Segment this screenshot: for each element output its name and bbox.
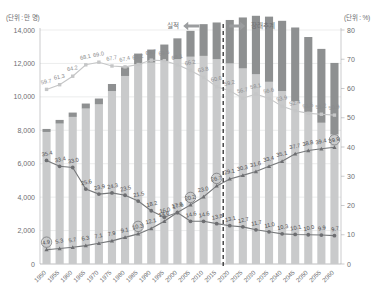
right-axis-tick-label: 70: [347, 56, 355, 63]
line-marker-working-age: [293, 109, 296, 112]
x-axis-tick-label: 1975: [98, 268, 113, 283]
line-marker-working-age: [58, 83, 61, 86]
left-axis-tick-label: 2,000: [17, 227, 35, 234]
line-marker-youth: [149, 209, 153, 213]
data-point-label: 12.7: [237, 216, 249, 224]
x-axis-tick-label: 2060: [320, 268, 335, 283]
line-marker-youth: [306, 233, 310, 237]
line-marker-working-age: [267, 97, 270, 100]
line-marker-youth: [215, 222, 219, 226]
data-point-label: 14.6: [185, 210, 197, 218]
data-point-label: 61.3: [53, 73, 65, 81]
data-point-label: 59.7: [40, 77, 52, 85]
bar-segment-elderly: [121, 67, 129, 76]
line-marker-youth: [84, 187, 88, 191]
x-axis-tick-label: 1960: [59, 268, 74, 283]
x-axis-tick-label: 2030: [242, 268, 257, 283]
line-marker-youth: [267, 230, 271, 234]
line-marker-working-age: [333, 113, 336, 116]
line-marker-working-age: [176, 63, 179, 66]
line-marker-working-age: [71, 75, 74, 78]
legend-projection-label: 장래추계: [251, 21, 275, 30]
x-axis-tick-label: 2015: [203, 268, 218, 283]
x-axis-tick-label: 2025: [229, 268, 244, 283]
line-marker-youth: [254, 228, 258, 232]
line-marker-working-age: [280, 105, 283, 108]
x-axis-tick-label: 2045: [281, 268, 296, 283]
bar-segment-elderly: [69, 113, 77, 117]
line-marker-working-age: [97, 60, 100, 63]
data-point-label: 13.1: [224, 215, 236, 223]
line-marker-youth: [189, 219, 193, 223]
bar-segment-elderly: [291, 27, 299, 101]
right-axis-tick-label: 80: [347, 27, 355, 34]
line-marker-youth: [280, 232, 284, 236]
line-marker-youth: [228, 224, 232, 228]
line-marker-youth: [333, 234, 337, 238]
bar-segment-elderly: [95, 99, 103, 105]
x-axis-tick-label: 2000: [163, 268, 178, 283]
x-axis-tick-label: 1970: [85, 268, 100, 283]
data-point-label: 33.0: [67, 156, 79, 164]
bar-segment-elderly: [317, 49, 325, 123]
bar-segment-working-age: [330, 134, 338, 264]
line-marker-youth: [110, 191, 114, 195]
bar-segment-elderly: [330, 63, 338, 135]
left-axis-tick-label: 0: [31, 261, 35, 268]
line-marker-working-age: [202, 76, 205, 79]
line-marker-working-age: [163, 59, 166, 62]
line-marker-working-age: [189, 69, 192, 72]
bar-segment-working-age: [186, 57, 194, 264]
line-marker-youth: [71, 166, 75, 170]
left-axis-tick-label: 6,000: [17, 160, 35, 167]
bar-segment-elderly: [200, 24, 208, 56]
bar-segment-working-age: [173, 59, 181, 264]
data-point-label: 11.7: [251, 219, 263, 227]
line-marker-working-age: [215, 85, 218, 88]
data-point-label: 13.8: [211, 213, 223, 221]
data-point-label: 23.9: [94, 183, 106, 191]
right-axis-tick-label: 0: [347, 261, 351, 268]
bar-segment-elderly: [56, 120, 64, 124]
legend-actual-label: 실적: [167, 21, 179, 30]
bar-segment-working-age: [304, 112, 312, 264]
left-axis-tick-label: 14,000: [14, 27, 36, 34]
line-marker-youth: [97, 192, 101, 196]
x-axis-tick-label: 2005: [177, 268, 192, 283]
chart-canvas: 02,0004,0006,0008,00010,00012,00014,0000…: [0, 0, 375, 299]
right-axis-tick-label: 30: [347, 173, 355, 180]
population-structure-chart: (단위 : 만 명) (단위 : %) 02,0004,0006,0008,00…: [0, 0, 375, 299]
line-marker-working-age: [123, 65, 126, 68]
x-axis-tick-label: 1995: [150, 268, 165, 283]
bar-segment-working-age: [265, 82, 273, 264]
bar-segment-working-age: [252, 74, 260, 264]
right-axis-tick-label: 50: [347, 114, 355, 121]
bar-segment-elderly: [42, 129, 50, 132]
line-marker-working-age: [84, 63, 87, 66]
left-axis-tick-label: 10,000: [14, 93, 36, 100]
x-axis-tick-label: 1990: [137, 268, 152, 283]
bar-segment-elderly: [186, 31, 194, 57]
x-axis-tick-label: 1950: [33, 268, 48, 283]
data-point-label: 24.3: [107, 182, 119, 190]
data-point-label: 69.0: [93, 50, 105, 58]
line-marker-youth: [136, 199, 140, 203]
bar-segment-working-age: [213, 59, 221, 264]
line-marker-working-age: [150, 58, 153, 61]
right-axis-tick-label: 60: [347, 85, 355, 92]
data-point-label: 11.0: [264, 221, 276, 229]
line-marker-youth: [319, 233, 323, 237]
line-marker-youth: [241, 225, 245, 229]
line-marker-working-age: [136, 63, 139, 66]
left-axis-tick-label: 12,000: [14, 60, 36, 67]
right-axis-tick-label: 10: [347, 231, 355, 238]
line-marker-working-age: [110, 64, 113, 67]
bar-segment-elderly: [82, 104, 90, 109]
data-point-label: 18.2: [146, 200, 158, 208]
data-point-label: 67.4: [119, 55, 131, 63]
line-marker-youth: [202, 219, 206, 223]
bar-segment-working-age: [108, 91, 116, 264]
bar-segment-elderly: [108, 84, 116, 91]
data-point-label: 14.6: [198, 210, 210, 218]
bar-segment-working-age: [200, 56, 208, 264]
